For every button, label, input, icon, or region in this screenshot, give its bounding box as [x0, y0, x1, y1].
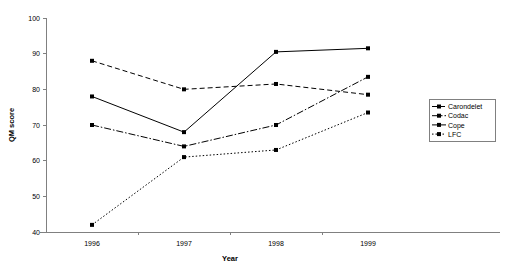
legend-label-lfc: LFC [448, 131, 461, 138]
x-tick-label: 1998 [268, 240, 284, 247]
data-point-carondelet-1996 [90, 59, 94, 63]
y-tick-label: 50 [32, 193, 40, 200]
legend-marker-cope [437, 123, 441, 127]
data-point-lfc-1996 [90, 223, 94, 227]
chart-legend: CarondeletCodacCopeLFC [429, 99, 495, 141]
series-line-cope [92, 48, 368, 132]
legend-marker-codac [437, 114, 441, 118]
legend-marker-lfc [437, 132, 441, 136]
y-tick-label: 100 [28, 15, 40, 22]
data-point-cope-1997 [182, 130, 186, 134]
x-axis-ticks: 1996199719981999 [84, 232, 376, 247]
data-point-codac-1996 [90, 123, 94, 127]
x-tick-label: 1999 [360, 240, 376, 247]
x-tick-label: 1997 [176, 240, 192, 247]
line-chart: 405060708090100 1996199719981999 QM scor… [0, 0, 526, 274]
data-point-codac-1997 [182, 144, 186, 148]
data-point-cope-1999 [366, 46, 370, 50]
data-point-cope-1996 [90, 94, 94, 98]
legend-label-codac: Codac [448, 112, 469, 119]
data-point-codac-1999 [366, 75, 370, 79]
y-tick-label: 90 [32, 50, 40, 57]
y-tick-label: 70 [32, 122, 40, 129]
series-line-carondelet [92, 61, 368, 95]
y-tick-label: 80 [32, 86, 40, 93]
legend-marker-carondelet [437, 105, 441, 109]
x-tick-label: 1996 [84, 240, 100, 247]
data-point-cope-1998 [274, 50, 278, 54]
chart-container: 405060708090100 1996199719981999 QM scor… [0, 0, 526, 274]
series-lines [90, 46, 370, 227]
data-point-carondelet-1997 [182, 87, 186, 91]
y-tick-label: 60 [32, 157, 40, 164]
legend-label-cope: Cope [448, 122, 465, 130]
y-tick-label: 40 [32, 229, 40, 236]
data-point-lfc-1998 [274, 148, 278, 152]
data-point-carondelet-1998 [274, 82, 278, 86]
data-point-codac-1998 [274, 123, 278, 127]
data-point-carondelet-1999 [366, 93, 370, 97]
legend-label-carondelet: Carondelet [448, 103, 482, 110]
series-line-codac [92, 77, 368, 147]
series-line-lfc [92, 113, 368, 225]
y-axis-ticks: 405060708090100 [28, 15, 46, 236]
x-axis-title: Year [222, 254, 238, 263]
y-axis-title: QM score [7, 108, 16, 142]
data-point-lfc-1999 [366, 111, 370, 115]
data-point-lfc-1997 [182, 155, 186, 159]
